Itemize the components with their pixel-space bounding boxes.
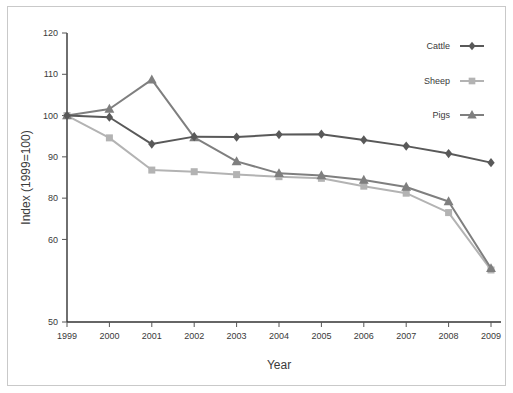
series-marker-diamond: [403, 142, 410, 151]
series-marker-square: [106, 134, 113, 141]
series-marker-diamond: [318, 130, 325, 139]
y-axis-tick-label: 50: [48, 317, 58, 327]
x-axis-tick-label: 2000: [99, 331, 119, 341]
series-marker-square: [445, 209, 452, 216]
legend-item-sheep[interactable]: Sheep: [424, 76, 484, 86]
series-marker-diamond: [233, 132, 240, 141]
legend-item-label: Cattle: [426, 41, 450, 51]
series-marker-diamond: [360, 135, 367, 144]
x-axis-tick-label: 2004: [269, 331, 289, 341]
y-axis-title: Index (1999=100): [19, 130, 33, 224]
legend-item-cattle[interactable]: Cattle: [426, 41, 484, 51]
legend-item-label: Pigs: [432, 110, 450, 120]
series-marker-diamond: [148, 139, 155, 148]
y-axis-tick-label: 120: [43, 28, 58, 38]
x-axis-tick-label: 2007: [396, 331, 416, 341]
y-axis-tick-label: 110: [44, 69, 58, 79]
y-axis-tick-label: 80: [48, 193, 58, 203]
series-cattle: [63, 111, 494, 167]
legend-item-pigs[interactable]: Pigs: [432, 110, 484, 120]
x-axis-tick-label: 1999: [57, 331, 77, 341]
series-marker-square: [469, 78, 476, 85]
line-chart-plot: 1201101009080605019992000200120022003200…: [0, 0, 513, 393]
x-axis-tick-label: 2001: [142, 331, 162, 341]
series-marker-square: [233, 171, 240, 178]
series-pigs: [62, 74, 496, 272]
series-marker-diamond: [469, 42, 476, 51]
series-marker-triangle: [147, 74, 157, 83]
series-marker-triangle: [232, 156, 242, 165]
x-axis-tick-label: 2009: [481, 331, 501, 341]
series-marker-square: [191, 168, 198, 175]
series-marker-diamond: [275, 130, 282, 139]
x-axis-title: Year: [267, 358, 291, 372]
series-marker-diamond: [106, 113, 113, 122]
series-marker-square: [148, 167, 155, 174]
y-axis-tick-label: 100: [43, 111, 58, 121]
x-axis-tick-label: 2002: [184, 331, 204, 341]
x-axis-tick-label: 2003: [227, 331, 247, 341]
y-axis-tick-label: 90: [48, 152, 58, 162]
series-marker-triangle: [104, 104, 114, 113]
x-axis-tick-label: 2006: [354, 331, 374, 341]
y-axis-tick-label: 60: [48, 235, 58, 245]
legend-item-label: Sheep: [424, 76, 450, 86]
series-marker-diamond: [445, 149, 452, 158]
chart-figure: 1201101009080605019992000200120022003200…: [0, 0, 513, 393]
series-marker-diamond: [487, 158, 494, 167]
x-axis-tick-label: 2005: [311, 331, 331, 341]
x-axis-tick-label: 2008: [439, 331, 459, 341]
